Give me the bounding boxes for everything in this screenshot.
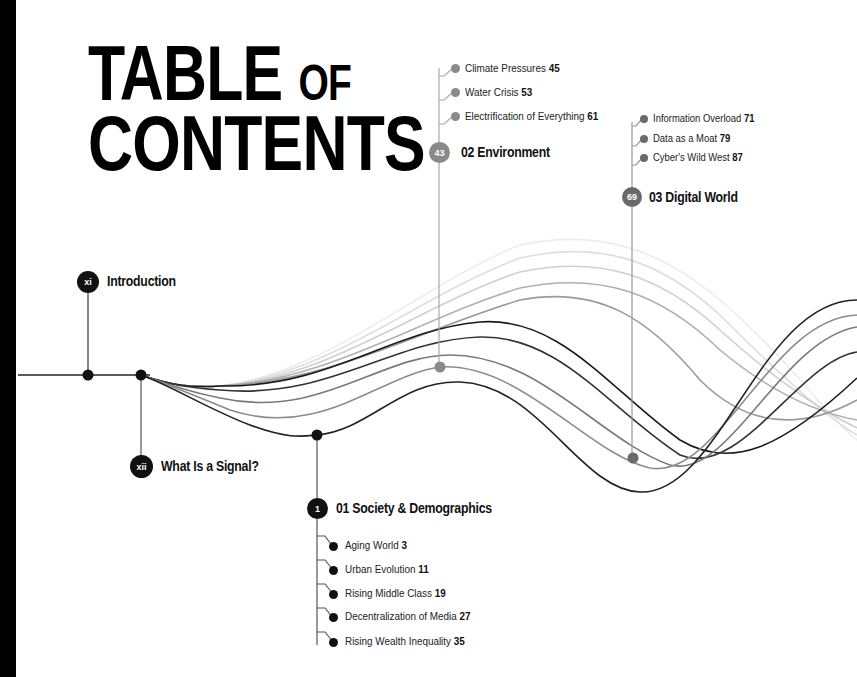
bullet-icon	[329, 638, 338, 647]
signal-wave-diagram	[0, 0, 857, 677]
node-society	[312, 430, 323, 441]
toc-item-water-crisis[interactable]: Water Crisis 53	[465, 86, 532, 98]
toc-item-aging-world[interactable]: Aging World 3	[345, 539, 407, 551]
toc-item-electrification-of-everything[interactable]: Electrification of Everything 61	[465, 110, 598, 122]
environment-badge: 43	[429, 142, 450, 163]
toc-item-climate-pressures[interactable]: Climate Pressures 45	[465, 62, 560, 74]
digital-section-link[interactable]: 03 Digital World	[649, 188, 738, 205]
toc-item-data-as-a-moat[interactable]: Data as a Moat 79	[653, 132, 730, 144]
bullet-icon	[329, 613, 338, 622]
bullet-icon	[640, 115, 648, 123]
toc-item-information-overload[interactable]: Information Overload 71	[653, 112, 754, 124]
node-intro	[83, 370, 94, 381]
bullet-icon	[451, 88, 460, 97]
bullet-icon	[451, 64, 460, 73]
node-signal	[136, 370, 147, 381]
bullet-icon	[640, 135, 648, 143]
toc-item-cybers-wild-west[interactable]: Cyber's Wild West 87	[653, 151, 743, 163]
node-digital	[628, 453, 639, 464]
toc-item-rising-wealth-inequality[interactable]: Rising Wealth Inequality 35	[345, 635, 465, 647]
bullet-icon	[329, 566, 338, 575]
toc-item-rising-middle-class[interactable]: Rising Middle Class 19	[345, 587, 446, 599]
signal-waves	[141, 239, 857, 492]
bullet-icon	[640, 154, 648, 162]
society-section-link[interactable]: 01 Society & Demographics	[336, 499, 492, 516]
signal-badge: xii	[130, 455, 153, 478]
society-badge: 1	[307, 498, 328, 519]
intro-badge: xi	[77, 271, 99, 293]
bullet-icon	[451, 112, 460, 121]
environment-section-link[interactable]: 02 Environment	[461, 143, 550, 160]
intro-link[interactable]: Introduction	[107, 272, 176, 289]
digital-badge: 69	[622, 187, 642, 207]
node-environment	[435, 362, 446, 373]
toc-item-decentralization-of-media[interactable]: Decentralization of Media 27	[345, 610, 470, 622]
toc-item-urban-evolution[interactable]: Urban Evolution 11	[345, 563, 429, 575]
signal-link[interactable]: What Is a Signal?	[161, 457, 259, 474]
bullet-icon	[329, 542, 338, 551]
bullet-icon	[329, 590, 338, 599]
